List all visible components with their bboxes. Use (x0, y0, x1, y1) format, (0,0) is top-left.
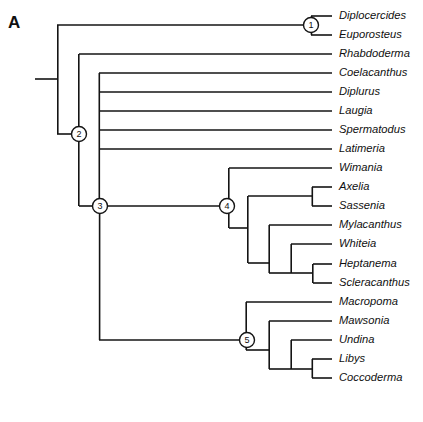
node-marker-4[interactable]: 4 (220, 199, 235, 214)
taxon-label-scleracanthus: Scleracanthus (339, 277, 410, 288)
taxon-label-euporosteus: Euporosteus (339, 29, 402, 40)
taxon-label-laugia: Laugia (339, 105, 373, 116)
taxon-label-mawsonia: Mawsonia (339, 315, 389, 326)
taxon-label-diplocercides: Diplocercides (339, 10, 406, 21)
node-marker-1[interactable]: 1 (304, 18, 319, 33)
tree-branches (35, 16, 332, 378)
taxon-label-libys: Libys (339, 353, 365, 364)
taxon-label-heptanema: Heptanema (339, 258, 397, 269)
numbered-node-markers: 1 2 3 4 5 (72, 18, 319, 348)
taxon-label-macropoma: Macropoma (339, 296, 398, 307)
taxon-label-whiteia: Whiteia (339, 238, 376, 249)
node-marker-5[interactable]: 5 (240, 333, 255, 348)
node-marker-3-label: 3 (97, 201, 102, 211)
taxon-label-sassenia: Sassenia (339, 200, 385, 211)
taxon-label-mylacanthus: Mylacanthus (339, 219, 402, 230)
taxon-label-coccoderma: Coccoderma (339, 372, 402, 383)
taxon-label-axelia: Axelia (339, 181, 369, 192)
taxon-label-wimania: Wimania (339, 162, 382, 173)
taxon-label-rhabdoderma: Rhabdoderma (339, 48, 410, 59)
taxon-label-diplurus: Diplurus (339, 86, 380, 97)
node-marker-1-label: 1 (308, 20, 313, 30)
taxon-label-undina: Undina (339, 334, 374, 345)
taxon-label-spermatodus: Spermatodus (339, 124, 406, 135)
taxon-label-latimeria: Latimeria (339, 143, 385, 154)
taxon-label-coelacanthus: Coelacanthus (339, 67, 407, 78)
node-marker-3[interactable]: 3 (93, 199, 108, 214)
phylogeny-figure: A (0, 0, 423, 422)
node-marker-2-label: 2 (76, 129, 81, 139)
node-marker-4-label: 4 (224, 201, 229, 211)
node-marker-5-label: 5 (244, 335, 249, 345)
node-marker-2[interactable]: 2 (72, 127, 87, 142)
